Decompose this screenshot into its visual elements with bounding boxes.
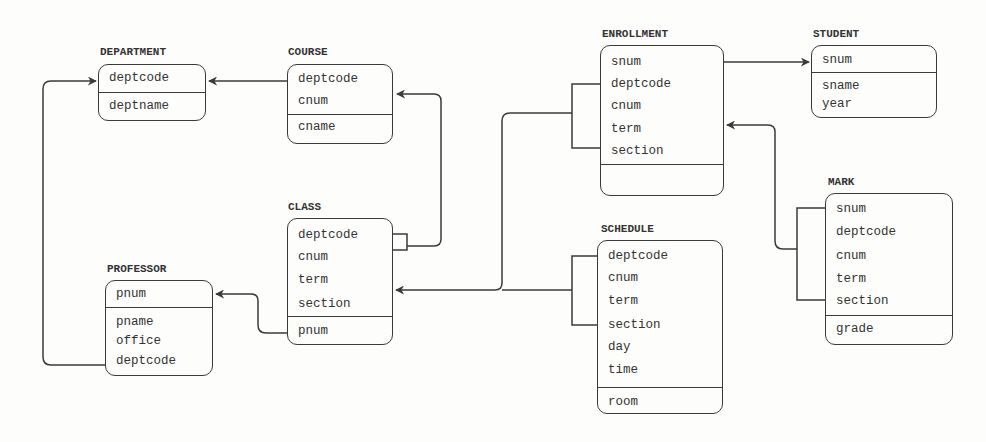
key-attribute: snum bbox=[836, 202, 866, 216]
key-attribute: time bbox=[608, 363, 638, 377]
attribute: pnum bbox=[298, 324, 328, 338]
attribute: grade bbox=[836, 322, 874, 336]
attribute: room bbox=[608, 395, 638, 409]
key-attribute: term bbox=[836, 272, 866, 286]
key-attribute: deptcode bbox=[298, 72, 358, 86]
attribute: cname bbox=[298, 120, 336, 134]
key-attribute: cnum bbox=[608, 271, 638, 285]
attribute: pname bbox=[116, 315, 154, 329]
entity-box: pnum pname office deptcode bbox=[105, 280, 213, 376]
key-attribute: cnum bbox=[611, 99, 641, 113]
key-attribute: term bbox=[611, 122, 641, 136]
key-attribute: deptcode bbox=[836, 225, 896, 239]
key-divider bbox=[99, 92, 205, 93]
key-attribute: deptcode bbox=[608, 249, 668, 263]
entity-title: STUDENT bbox=[813, 28, 859, 40]
entity-title: PROFESSOR bbox=[107, 263, 166, 275]
key-attribute: pnum bbox=[116, 287, 146, 301]
fk-schedule-class-bracket bbox=[572, 256, 597, 325]
fk-class-course bbox=[397, 94, 441, 246]
key-attribute: deptcode bbox=[109, 71, 169, 85]
key-divider bbox=[288, 114, 392, 115]
key-attribute: cnum bbox=[836, 249, 866, 263]
fk-class-course-bracket bbox=[393, 234, 407, 250]
fk-enrollment-class bbox=[396, 113, 572, 290]
key-attribute: section bbox=[298, 297, 351, 311]
entity-box: deptcode cnum term section pnum bbox=[287, 218, 393, 345]
key-divider bbox=[601, 164, 723, 165]
key-attribute: term bbox=[298, 273, 328, 287]
key-attribute: cnum bbox=[298, 94, 328, 108]
key-attribute: day bbox=[608, 340, 631, 354]
fk-mark-enrollment bbox=[727, 125, 797, 249]
entity-title: CLASS bbox=[288, 201, 321, 213]
attribute: office bbox=[116, 334, 161, 348]
attribute: deptname bbox=[109, 99, 169, 113]
attribute: deptcode bbox=[116, 354, 176, 368]
key-divider bbox=[598, 387, 722, 388]
entity-title: ENROLLMENT bbox=[602, 28, 668, 40]
attribute: sname bbox=[822, 79, 860, 93]
key-attribute: deptcode bbox=[611, 77, 671, 91]
entity-box: snum deptcode cnum term section bbox=[600, 45, 724, 196]
key-attribute: deptcode bbox=[298, 228, 358, 242]
key-attribute: snum bbox=[822, 53, 852, 67]
fk-class-professor bbox=[216, 294, 287, 333]
entity-box: deptcode cnum cname bbox=[287, 64, 393, 144]
key-divider bbox=[826, 315, 952, 316]
fk-enrollment-class-bracket bbox=[572, 84, 600, 148]
entity-title: MARK bbox=[828, 176, 854, 188]
key-divider bbox=[106, 307, 212, 308]
key-attribute: snum bbox=[611, 55, 641, 69]
fk-mark-enrollment-bracket bbox=[797, 208, 825, 300]
entity-box: deptcode cnum term section day time room bbox=[597, 240, 723, 414]
entity-box: snum sname year bbox=[811, 45, 937, 118]
key-attribute: term bbox=[608, 294, 638, 308]
key-divider bbox=[288, 316, 392, 317]
key-attribute: section bbox=[836, 294, 889, 308]
key-attribute: section bbox=[611, 144, 664, 158]
entity-title: SCHEDULE bbox=[601, 223, 654, 235]
entity-box: deptcode deptname bbox=[98, 64, 206, 121]
entity-box: snum deptcode cnum term section grade bbox=[825, 193, 953, 345]
fk-professor-department bbox=[43, 81, 105, 365]
entity-title: COURSE bbox=[288, 46, 328, 58]
entity-title: DEPARTMENT bbox=[100, 46, 166, 58]
key-divider bbox=[812, 72, 936, 73]
key-attribute: cnum bbox=[298, 250, 328, 264]
attribute: year bbox=[822, 97, 852, 111]
key-attribute: section bbox=[608, 318, 661, 332]
